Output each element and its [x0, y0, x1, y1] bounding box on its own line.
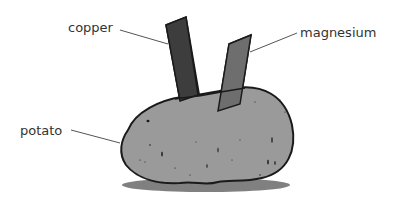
copper-electrode-visible — [166, 17, 198, 101]
copper-label: copper — [68, 21, 113, 34]
potato — [121, 87, 293, 183]
potato-leader-line — [71, 130, 120, 143]
magnesium-leader-line — [250, 33, 297, 52]
copper-leader-line — [120, 30, 168, 44]
magnesium-label: magnesium — [300, 26, 376, 39]
potato-label: potato — [20, 124, 62, 137]
